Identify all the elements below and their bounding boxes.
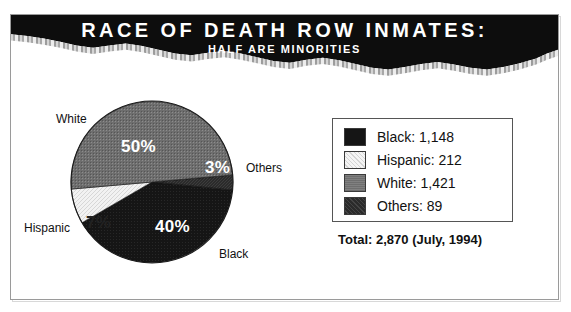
legend-item-others: Others: 89: [344, 195, 442, 216]
legend-item-white: White: 1,421: [344, 172, 456, 193]
legend-item-black: Black: 1,148: [344, 126, 454, 147]
legend-label-others: Others: 89: [377, 198, 442, 214]
total-label: Total: 2,870 (July, 1994): [338, 232, 482, 247]
pie-label-white: White: [56, 112, 87, 126]
pie-pct-others: 3%: [205, 158, 230, 178]
page-title: Race of Death Row Inmates:: [11, 19, 558, 42]
pie-pct-black: 40%: [155, 217, 190, 237]
chart-figure: Race of Death Row Inmates: Half Are Mino…: [0, 0, 571, 312]
legend-swatch-white: [344, 174, 366, 192]
legend-swatch-others: [344, 197, 366, 215]
legend: Black: 1,148 Hispanic: 212 White: 1,421 …: [332, 118, 513, 222]
pie-label-black: Black: [219, 247, 248, 261]
legend-label-black: Black: 1,148: [377, 129, 454, 145]
pie-pct-hispanic: 7%: [86, 213, 111, 233]
header-band: Race of Death Row Inmates: Half Are Mino…: [11, 15, 558, 77]
pie-label-others: Others: [246, 161, 282, 175]
page-subtitle: Half Are Minorities: [11, 43, 558, 55]
pie-label-hispanic: Hispanic: [24, 221, 70, 235]
pie-chart-svg: [70, 100, 234, 264]
legend-label-white: White: 1,421: [377, 175, 456, 191]
legend-swatch-black: [344, 128, 366, 146]
legend-label-hispanic: Hispanic: 212: [377, 152, 462, 168]
pie-pct-white: 50%: [121, 137, 156, 157]
legend-item-hispanic: Hispanic: 212: [344, 149, 462, 170]
pie-chart: [70, 100, 234, 264]
legend-swatch-hispanic: [344, 151, 366, 169]
